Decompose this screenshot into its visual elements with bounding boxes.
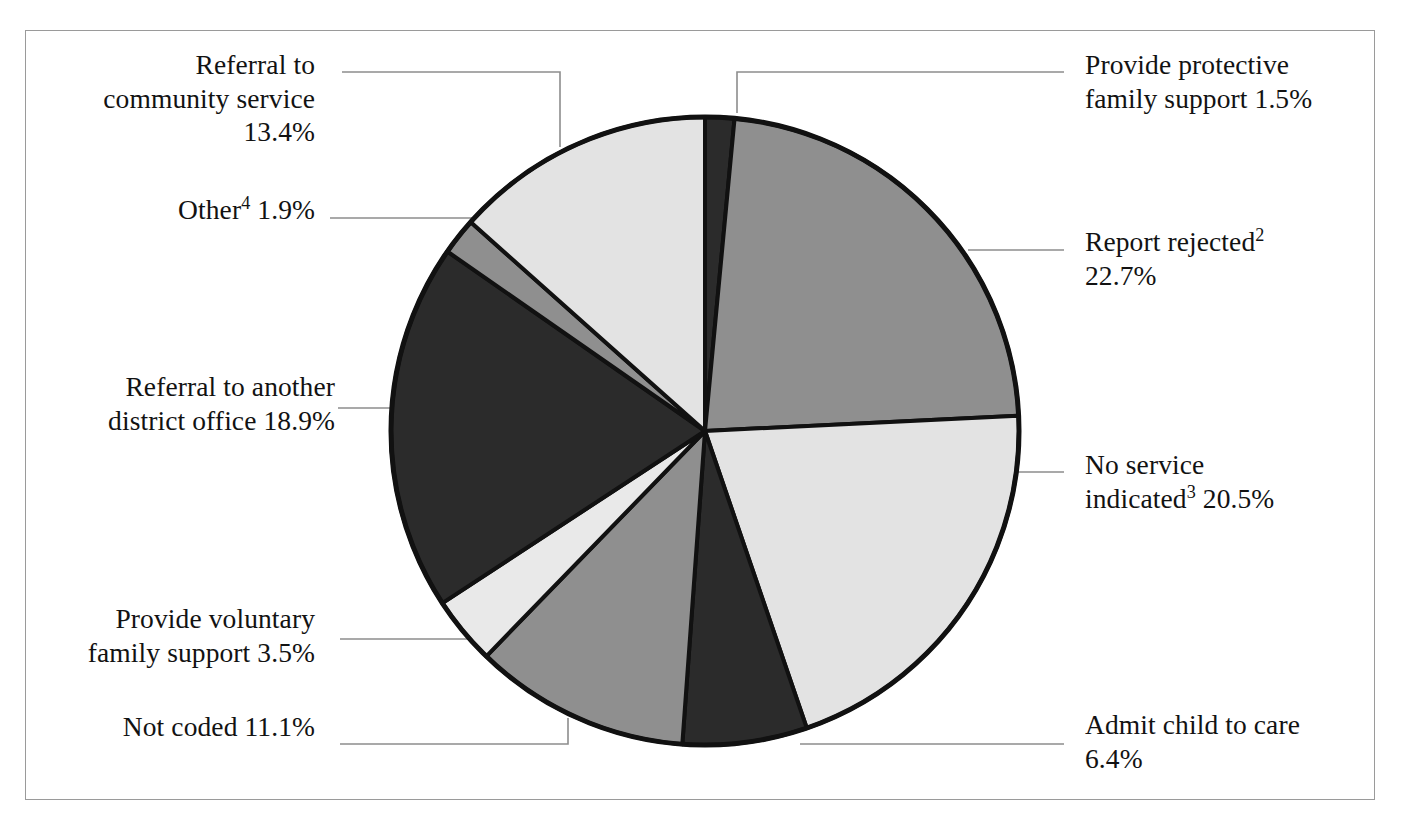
label-report-rejected-footnote-marker: 2 — [1255, 225, 1264, 245]
label-admit-child-to-care: Admit child to care 6.4% — [1085, 708, 1385, 775]
label-report-rejected: Report rejected2 22.7% — [1085, 225, 1385, 292]
pie-slice-group — [391, 117, 1019, 745]
label-report-rejected-text: Report rejected — [1085, 226, 1255, 257]
label-provide-voluntary-family-support: Provide voluntary family support 3.5% — [0, 602, 315, 669]
label-not-coded: Not coded 11.1% — [0, 710, 315, 744]
label-other-value: 1.9% — [250, 194, 315, 225]
label-report-rejected-value: 22.7% — [1085, 260, 1157, 291]
leader-provide-protective — [737, 72, 1064, 113]
label-no-service-value: 20.5% — [1196, 483, 1275, 514]
label-other: Other4 1.9% — [0, 193, 315, 227]
label-referral-to-community-service: Referral to community service 13.4% — [0, 48, 315, 149]
label-provide-protective-family-support: Provide protective family support 1.5% — [1085, 48, 1385, 115]
label-no-service-indicated: No service indicated3 20.5% — [1085, 448, 1385, 515]
label-other-text: Other — [178, 194, 241, 225]
label-referral-to-another-district-office: Referral to another district office 18.9… — [0, 370, 335, 437]
pie-chart-figure: Referral to community service 13.4% Othe… — [0, 0, 1405, 833]
leader-referral-community — [342, 72, 560, 147]
label-no-service-footnote-marker: 3 — [1187, 481, 1196, 501]
pie-slice-report-rejected — [705, 118, 1019, 431]
leader-not-coded — [340, 718, 568, 744]
label-other-footnote-marker: 4 — [241, 193, 250, 213]
